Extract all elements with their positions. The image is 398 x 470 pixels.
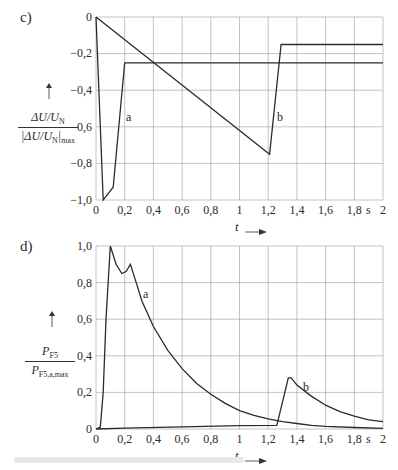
- xtick: 0,2: [110, 432, 140, 447]
- xtick: 0,6: [167, 432, 197, 447]
- plot-d: [0, 0, 398, 470]
- xtick: 1,8: [339, 432, 369, 447]
- xtick: 1,6: [311, 432, 341, 447]
- curve-label-b: b: [303, 380, 309, 395]
- right-arrow-icon: [245, 451, 267, 469]
- xtick: 1: [225, 432, 255, 447]
- panel-d: d) 1,0 0,8 0,6 0,4 0,2 0 PF5 PF5,a,max 0…: [0, 0, 398, 470]
- xtick: 0,8: [196, 432, 226, 447]
- xtick: 0: [81, 432, 111, 447]
- x-unit-d: s: [366, 432, 371, 447]
- xtick: 0,4: [138, 432, 168, 447]
- faded-caption: [14, 457, 244, 463]
- xtick: 2: [368, 432, 398, 447]
- curve-label-a: a: [143, 287, 148, 302]
- xtick: 1,4: [282, 432, 312, 447]
- xtick: 1,2: [253, 432, 283, 447]
